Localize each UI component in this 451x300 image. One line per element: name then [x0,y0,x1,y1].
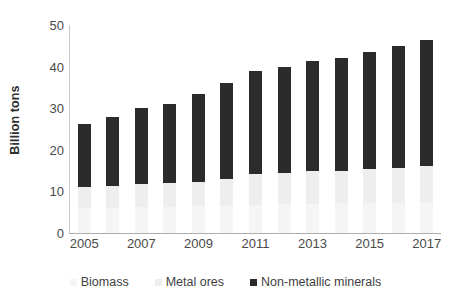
bar-segment [106,186,119,207]
bar-segment [220,83,233,179]
x-axis-tick-label: 2011 [234,236,278,252]
x-axis-tick-label: 2005 [62,236,106,252]
bar-segment [78,187,91,208]
bar-segment [363,169,376,203]
bar-group[interactable] [363,25,376,233]
bar-group[interactable] [135,25,148,233]
bar-segment [249,174,262,204]
bar-segment [392,168,405,203]
chart-figure: Billion tons 01020304050 200520072009201… [0,0,451,300]
bar-segment [163,183,176,207]
bar-segment [163,207,176,233]
plot-area [69,25,441,233]
bar-segment [192,206,205,233]
x-axis-tick-label: 2017 [405,236,449,252]
bar-segment [192,182,205,207]
bar-segment [106,117,119,187]
legend-item-label: Biomass [81,275,129,289]
x-axis-tick-label: 2013 [291,236,335,252]
bar-group[interactable] [163,25,176,233]
bar-group[interactable] [278,25,291,233]
square-swatch-icon [70,279,77,286]
bar-segment [249,205,262,233]
bar-group[interactable] [249,25,262,233]
bar-group[interactable] [392,25,405,233]
bar-segment [420,166,433,202]
bar-segment [335,171,348,203]
x-axis-line [69,233,441,234]
bar-series-container [70,25,441,233]
bar-group[interactable] [306,25,319,233]
square-swatch-icon [250,279,257,286]
bar-segment [278,173,291,204]
y-axis-title-text: Billion tons [8,85,22,154]
bar-segment [363,52,376,169]
bar-segment [220,179,233,205]
y-axis-tick-label: 50 [30,19,64,32]
y-axis-tick-label: 10 [30,185,64,198]
bar-segment [278,67,291,173]
bar-segment [335,58,348,171]
legend-item-label: Non-metallic minerals [261,275,381,289]
bar-group[interactable] [335,25,348,233]
bar-group[interactable] [106,25,119,233]
bar-segment [420,202,433,233]
bar-segment [306,204,319,233]
legend-item[interactable]: Metal ores [155,275,224,289]
bar-segment [220,206,233,233]
bar-segment [278,204,291,233]
bar-group[interactable] [192,25,205,233]
bar-segment [363,203,376,233]
bar-segment [106,208,119,233]
legend-item[interactable]: Non-metallic minerals [250,275,381,289]
legend-item-label: Metal ores [166,275,224,289]
x-axis-tick-label: 2009 [176,236,220,252]
bar-segment [192,94,205,181]
x-axis-tick-labels: 2005200720092011201320152017 [69,236,444,258]
bar-segment [392,46,405,168]
bar-segment [306,61,319,172]
legend-item[interactable]: Biomass [70,275,129,289]
bar-segment [420,40,433,166]
x-axis-tick-label: 2007 [119,236,163,252]
bar-group[interactable] [220,25,233,233]
y-axis-tick-label: 20 [30,144,64,157]
bar-segment [78,124,91,188]
chart-legend: BiomassMetal oresNon-metallic minerals [0,270,451,294]
y-axis-tick-label: 40 [30,61,64,74]
bar-segment [135,108,148,184]
bar-segment [135,207,148,233]
bar-segment [135,184,148,207]
square-swatch-icon [155,279,162,286]
y-axis-tick-label: 0 [30,227,64,240]
bar-segment [335,203,348,233]
x-axis-tick-label: 2015 [348,236,392,252]
bar-group[interactable] [78,25,91,233]
bar-segment [78,208,91,233]
y-axis-tick-label: 30 [30,102,64,115]
bar-group[interactable] [420,25,433,233]
y-axis-tick-labels: 01020304050 [26,0,64,300]
bar-segment [306,171,319,203]
bar-segment [249,71,262,175]
bar-segment [163,104,176,183]
bar-segment [392,203,405,233]
